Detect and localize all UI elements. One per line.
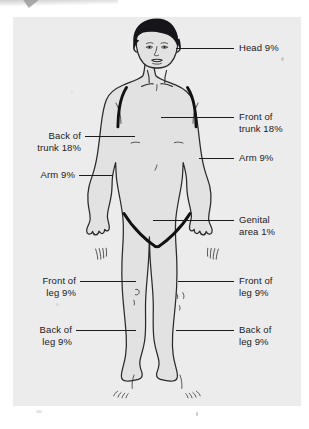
label-arm-right: Arm 9% — [239, 152, 301, 164]
label-front-of-leg-right: Front of leg 9% — [239, 275, 301, 298]
leader-line-head — [176, 48, 234, 49]
human-body-figure: .bd{fill:#e2e2e3;stroke:#2a2a2a;stroke-w… — [13, 17, 301, 406]
diagram-panel: .bd{fill:#e2e2e3;stroke:#2a2a2a;stroke-w… — [13, 17, 301, 406]
scan-speck — [56, 303, 59, 306]
scan-speck — [196, 412, 198, 416]
leader-line-front-of-leg-left — [80, 281, 136, 282]
leader-line-arm-left — [79, 175, 113, 176]
head-and-face — [133, 18, 180, 82]
leader-line-back-of-leg-left — [76, 330, 136, 331]
label-back-of-trunk: Back of trunk 18% — [19, 130, 81, 153]
scan-speck — [36, 410, 42, 413]
label-arm-left: Arm 9% — [19, 169, 75, 181]
left-hand — [96, 248, 107, 259]
label-back-of-leg-left: Back of leg 9% — [19, 324, 72, 347]
scan-corner-fold — [13, 0, 47, 10]
scanned-page: .bd{fill:#e2e2e3;stroke:#2a2a2a;stroke-w… — [0, 0, 309, 429]
leader-line-arm-right — [199, 158, 234, 159]
leader-line-back-of-leg-right — [176, 330, 234, 331]
right-hand — [207, 248, 218, 259]
leader-line-genital-area — [153, 220, 234, 221]
scan-speck — [71, 91, 73, 93]
label-front-of-trunk: Front of trunk 18% — [239, 111, 301, 134]
scan-speck — [281, 57, 284, 61]
label-front-of-leg-left: Front of leg 9% — [19, 275, 76, 298]
scan-page-curl-artifact — [0, 0, 118, 16]
leader-line-front-of-trunk — [161, 117, 234, 118]
label-back-of-leg-right: Back of leg 9% — [239, 324, 301, 347]
scan-edge-band — [0, 0, 118, 7]
leader-line-front-of-leg-right — [178, 281, 234, 282]
leader-line-back-of-trunk — [85, 136, 135, 137]
label-head: Head 9% — [239, 42, 301, 54]
page-footer-margin — [0, 406, 309, 429]
label-genital-area: Genital area 1% — [239, 214, 301, 237]
